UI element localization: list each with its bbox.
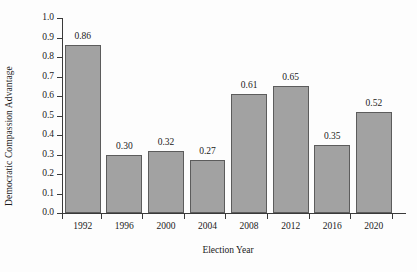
y-tick-mark xyxy=(57,194,62,195)
x-axis-spine xyxy=(62,213,406,214)
bar-value-label: 0.86 xyxy=(53,31,113,41)
x-tick-mark xyxy=(101,214,102,219)
y-tick-label: 0.7 xyxy=(22,71,54,81)
x-tick-label: 2020 xyxy=(344,221,404,231)
bar-chart: Democratic Compassion Advantage Election… xyxy=(0,0,417,272)
bar xyxy=(273,86,309,213)
bar-value-label: 0.65 xyxy=(261,72,321,82)
y-tick-mark xyxy=(57,174,62,175)
y-tick-mark xyxy=(57,77,62,78)
bar xyxy=(231,94,267,213)
y-tick-label: 0.8 xyxy=(22,51,54,61)
bar-value-label: 0.27 xyxy=(178,146,238,156)
bar xyxy=(314,145,350,213)
y-tick-mark xyxy=(57,57,62,58)
bar xyxy=(106,155,142,214)
y-tick-label: 0.5 xyxy=(22,110,54,120)
y-tick-label: 0.1 xyxy=(22,188,54,198)
bar xyxy=(190,160,226,213)
y-axis-spine xyxy=(62,18,63,213)
x-tick-mark xyxy=(62,214,63,219)
x-axis-title: Election Year xyxy=(48,245,408,255)
x-tick-mark xyxy=(267,214,268,219)
bar-value-label: 0.52 xyxy=(344,98,404,108)
y-tick-mark xyxy=(57,155,62,156)
y-tick-label: 0.0 xyxy=(22,207,54,217)
bar xyxy=(356,112,392,213)
y-tick-label: 0.4 xyxy=(22,129,54,139)
x-tick-mark xyxy=(350,214,351,219)
bar xyxy=(148,151,184,213)
bar-value-label: 0.32 xyxy=(136,137,196,147)
x-tick-mark xyxy=(184,214,185,219)
x-tick-mark xyxy=(392,214,393,219)
y-tick-mark xyxy=(57,18,62,19)
y-tick-label: 0.2 xyxy=(22,168,54,178)
x-tick-mark xyxy=(309,214,310,219)
y-tick-label: 1.0 xyxy=(22,12,54,22)
bar-value-label: 0.35 xyxy=(302,131,362,141)
x-tick-mark xyxy=(142,214,143,219)
y-tick-label: 0.6 xyxy=(22,90,54,100)
y-tick-label: 0.3 xyxy=(22,149,54,159)
y-tick-mark xyxy=(57,116,62,117)
y-tick-mark xyxy=(57,96,62,97)
bar xyxy=(65,45,101,213)
y-axis-title: Democratic Compassion Advantage xyxy=(0,0,18,272)
x-tick-mark xyxy=(225,214,226,219)
y-tick-mark xyxy=(57,135,62,136)
y-tick-label: 0.9 xyxy=(22,32,54,42)
